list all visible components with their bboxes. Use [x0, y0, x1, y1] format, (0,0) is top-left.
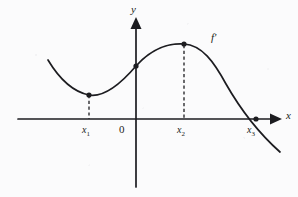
y-axis-label: y — [131, 4, 136, 15]
y-axis-arrowhead — [131, 17, 142, 29]
math-figure: y x 0 x1 x2 x3 f' — [0, 0, 298, 197]
tick-label-x2-sub: 2 — [181, 130, 185, 138]
point-y-intercept — [133, 63, 138, 68]
tick-label-x1-sub: 1 — [86, 130, 90, 138]
x-axis-arrowhead — [270, 114, 282, 125]
graph-canvas — [0, 0, 298, 197]
tick-label-x1: x1 — [82, 125, 90, 138]
tick-label-x3-sub: 3 — [251, 130, 255, 138]
tick-label-x3: x3 — [247, 125, 255, 138]
x-axis-label: x — [286, 110, 291, 121]
point-local-maximum — [181, 41, 186, 46]
curve-label-f-prime: f' — [211, 32, 216, 43]
origin-label: 0 — [119, 124, 125, 135]
point-x-intercept-x3 — [253, 116, 258, 121]
point-local-minimum — [86, 92, 91, 97]
tick-label-x2: x2 — [177, 125, 185, 138]
